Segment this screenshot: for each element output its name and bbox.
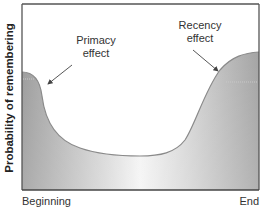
x-tick-end: End — [239, 195, 259, 207]
x-tick-beginning: Beginning — [22, 195, 71, 207]
primacy-arrow — [48, 65, 72, 84]
recency-arrow — [193, 50, 218, 71]
primacy-label-line2: effect — [66, 47, 126, 60]
recency-label-line2: effect — [170, 32, 230, 45]
y-axis-label: Probability of remembering — [3, 13, 19, 183]
primacy-annotation: Primacy effect — [66, 34, 126, 60]
primacy-label-line1: Primacy — [66, 34, 126, 47]
recency-label-line1: Recency — [170, 19, 230, 32]
recency-annotation: Recency effect — [170, 19, 230, 45]
